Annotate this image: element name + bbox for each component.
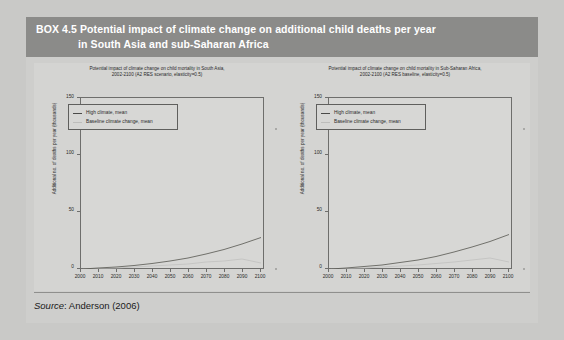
x-tickmark-2000	[80, 269, 81, 272]
legend-swatch-high-climate	[321, 113, 330, 114]
x-tickmark-2050	[418, 269, 419, 272]
x-tickmark-2030	[382, 269, 383, 272]
x-tick-2100: 2100	[247, 274, 273, 279]
legend-label-baseline: Baseline climate change, mean	[334, 119, 401, 124]
x-tickmark-2040	[400, 269, 401, 272]
x-tickmark-2000	[328, 269, 329, 272]
legend-label-high-climate: High climate, mean	[86, 110, 127, 115]
y-tick-50: 50	[40, 207, 74, 212]
legend-south-asia: High climate, mean Baseline climate chan…	[68, 104, 178, 130]
chart-south-asia: Potential impact of climate change on ch…	[34, 62, 280, 290]
box-header-line-1: BOX 4.5 Potential impact of climate chan…	[36, 23, 436, 35]
x-tickmark-2070	[454, 269, 455, 272]
x-tick-2100: 2100	[495, 274, 521, 279]
x-tickmark-2100	[260, 269, 261, 272]
chart-title-line-2: 2002-2100 (A2 RES baseline, elasticity=0…	[282, 72, 528, 78]
page-root: BOX 4.5 Potential impact of climate chan…	[0, 0, 564, 340]
x-tickmark-2010	[346, 269, 347, 272]
box-header-line-2: in South Asia and sub-Saharan Africa	[78, 38, 269, 50]
y-tick-150: 150	[288, 94, 322, 99]
x-tickmark-2040	[152, 269, 153, 272]
source-text: : Anderson (2006)	[64, 300, 140, 311]
x-tickmark-2070	[206, 269, 207, 272]
box-header-banner: BOX 4.5 Potential impact of climate chan…	[26, 17, 538, 57]
scan-artifact-right	[523, 128, 525, 130]
scan-artifact-left-lower	[275, 268, 277, 270]
x-tickmark-2080	[472, 269, 473, 272]
x-tickmark-2060	[436, 269, 437, 272]
legend-label-high-climate: High climate, mean	[334, 110, 375, 115]
x-tickmark-2090	[242, 269, 243, 272]
x-tickmark-2030	[134, 269, 135, 272]
legend-label-baseline: Baseline climate change, mean	[86, 119, 153, 124]
legend-sub-saharan-africa: High climate, mean Baseline climate chan…	[316, 104, 426, 130]
chart-sub-saharan-africa: Potential impact of climate change on ch…	[282, 62, 528, 290]
y-tick-100: 100	[40, 150, 74, 155]
legend-swatch-baseline	[73, 122, 82, 123]
scan-artifact-right-lower	[523, 268, 525, 270]
x-tickmark-2100	[508, 269, 509, 272]
y-tick-0: 0	[288, 264, 322, 269]
x-tickmark-2090	[490, 269, 491, 272]
x-tickmark-2020	[364, 269, 365, 272]
y-tick-150: 150	[40, 94, 74, 99]
y-tick-0: 0	[40, 264, 74, 269]
chart-title-sub-saharan-africa: Potential impact of climate change on ch…	[282, 66, 528, 78]
scan-artifact-left	[275, 128, 277, 130]
chart-title-line-2: 2002-2100 (A2 RES scenario, elasticity=0…	[34, 72, 280, 78]
source-line: Source: Anderson (2006)	[34, 300, 140, 311]
chart-title-south-asia: Potential impact of climate change on ch…	[34, 66, 280, 78]
y-tick-50: 50	[288, 207, 322, 212]
x-tickmark-2080	[224, 269, 225, 272]
legend-swatch-high-climate	[73, 113, 82, 114]
x-tickmark-2060	[188, 269, 189, 272]
x-tickmark-2050	[170, 269, 171, 272]
x-tickmark-2010	[98, 269, 99, 272]
x-tickmark-2020	[116, 269, 117, 272]
legend-swatch-baseline	[321, 122, 330, 123]
source-divider	[34, 292, 530, 293]
source-label: Source	[34, 300, 64, 311]
y-tick-100: 100	[288, 150, 322, 155]
